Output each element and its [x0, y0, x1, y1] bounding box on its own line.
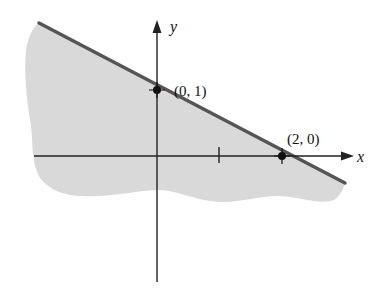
- point-label-0-1: (0, 1): [174, 83, 207, 100]
- shaded-region: [25, 23, 345, 202]
- y-axis-arrow-icon: [153, 20, 162, 33]
- point-label-2-0: (2, 0): [287, 131, 320, 148]
- y-axis-label: y: [168, 18, 178, 36]
- x-axis-arrow-icon: [341, 152, 354, 161]
- inequality-graph: y x (0, 1) (2, 0): [0, 0, 390, 300]
- x-axis-label: x: [356, 148, 364, 165]
